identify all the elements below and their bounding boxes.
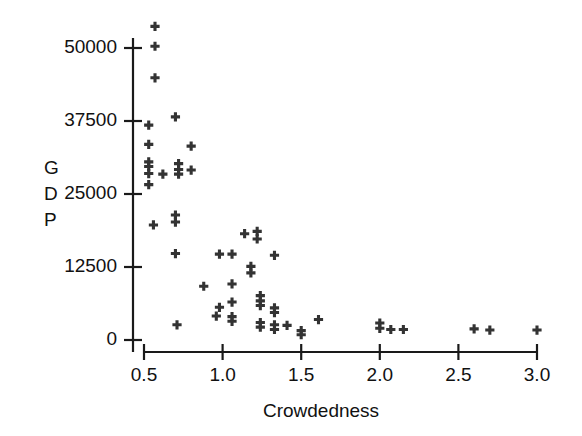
y-tick-label: 0 <box>0 328 117 350</box>
data-point-marker <box>212 311 221 320</box>
data-point-marker <box>314 315 323 324</box>
data-point-marker <box>171 249 180 258</box>
data-point-marker <box>172 320 181 329</box>
data-point-marker <box>240 229 249 238</box>
data-point-marker <box>150 73 159 82</box>
data-point-marker <box>171 112 180 121</box>
y-axis-title-char: G <box>44 157 59 179</box>
data-point-marker <box>270 251 279 260</box>
data-point-marker <box>187 165 196 174</box>
data-point-marker <box>386 325 395 334</box>
y-tick-label: 12500 <box>0 255 117 277</box>
data-point-marker <box>150 42 159 51</box>
data-point-marker <box>246 268 255 277</box>
data-point-marker <box>144 180 153 189</box>
data-point-marker <box>227 250 236 259</box>
y-tick-label: 50000 <box>0 36 117 58</box>
data-point-marker <box>253 234 262 243</box>
data-point-marker <box>199 282 208 291</box>
data-point-marker <box>158 170 167 179</box>
y-axis-title-char: D <box>44 183 58 205</box>
x-tick-label: 2.0 <box>340 364 420 386</box>
y-axis-title-char: P <box>44 209 57 231</box>
x-tick-label: 2.5 <box>418 364 498 386</box>
data-point-marker <box>227 279 236 288</box>
data-point-marker <box>532 325 541 334</box>
data-points-layer <box>144 22 541 340</box>
data-point-marker <box>215 250 224 259</box>
data-point-marker <box>485 325 494 334</box>
data-point-marker <box>149 220 158 229</box>
data-point-marker <box>215 303 224 312</box>
data-point-marker <box>144 169 153 178</box>
data-point-marker <box>150 22 159 31</box>
y-tick-label: 37500 <box>0 109 117 131</box>
data-point-marker <box>375 324 384 333</box>
data-point-marker <box>227 297 236 306</box>
scatter-chart-figure: 012500250003750050000 0.51.01.52.02.53.0… <box>0 0 582 436</box>
data-point-marker <box>187 142 196 151</box>
data-point-marker <box>399 325 408 334</box>
data-point-marker <box>144 120 153 129</box>
data-point-marker <box>144 140 153 149</box>
data-point-marker <box>470 324 479 333</box>
x-tick-label: 3.0 <box>497 364 577 386</box>
x-tick-label: 1.5 <box>261 364 341 386</box>
x-axis-title: Crowdedness <box>0 400 582 422</box>
axis-layer <box>124 38 537 360</box>
data-point-marker <box>282 321 291 330</box>
data-point-marker <box>171 217 180 226</box>
y-tick-label: 25000 <box>0 182 117 204</box>
x-tick-label: 0.5 <box>104 364 184 386</box>
x-tick-label: 1.0 <box>183 364 263 386</box>
